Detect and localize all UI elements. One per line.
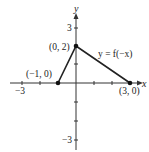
point-3-0 xyxy=(128,81,133,86)
point-label-b: (0, 2) xyxy=(49,42,70,53)
point-neg1-0 xyxy=(56,81,61,86)
point-label-c: (3, 0) xyxy=(119,86,140,97)
point-0-2 xyxy=(74,44,79,49)
tick-label-y-3: 3 xyxy=(67,23,72,33)
y-axis-label: y xyxy=(73,3,79,14)
x-axis-label: x xyxy=(141,78,147,89)
point-label-a: (−1, 0) xyxy=(26,69,52,80)
graph: y x −3 3 −3 (−1, 0) (0, 2) (3, 0) y = f(… xyxy=(0,0,149,152)
curve-label: y = f(−x) xyxy=(98,49,132,60)
tick-label-y-neg3: −3 xyxy=(62,135,72,145)
tick-label-x-neg3: −3 xyxy=(15,86,25,96)
